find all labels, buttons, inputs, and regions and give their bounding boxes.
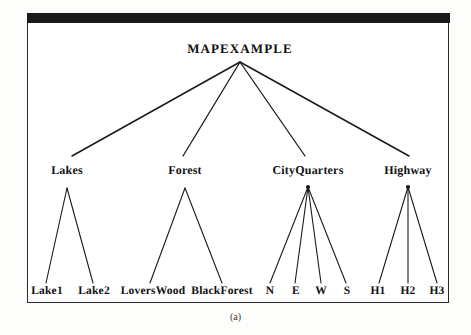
node-branch-cityquarters: CityQuarters [272,163,343,178]
node-leaf-w: W [315,285,327,297]
node-leaf-loverswood: LoversWood [121,285,186,297]
node-leaf-h3: H3 [429,285,444,297]
node-leaf-h1: H1 [370,285,385,297]
node-leaf-lake2: Lake2 [78,285,110,297]
scanned-figure-page: MAPEXAMPLE Lakes Forest CityQuarters Hig… [0,0,471,335]
node-leaf-e: E [292,285,300,297]
node-leaf-lake1: Lake1 [31,285,63,297]
node-leaf-s: S [344,285,351,297]
figure-top-black-bar [27,13,450,23]
node-leaf-n: N [266,285,275,297]
node-branch-forest: Forest [168,163,202,178]
node-leaf-blackforest: BlackForest [191,285,252,297]
node-root-mapexample: MAPEXAMPLE [187,41,293,57]
node-branch-highway: Highway [384,163,431,178]
figure-caption: (a) [0,311,471,322]
node-branch-lakes: Lakes [51,163,83,178]
node-leaf-h2: H2 [400,285,415,297]
